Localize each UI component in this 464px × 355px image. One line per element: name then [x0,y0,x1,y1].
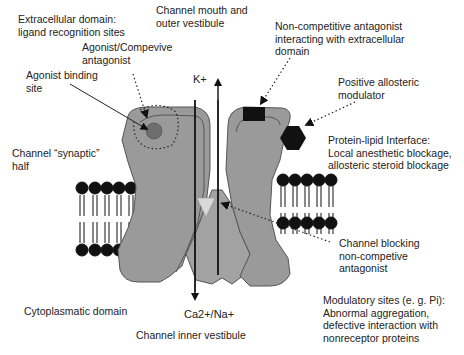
label-line: site [26,82,98,95]
label-positive-allosteric: Positive allosteric modulator [338,76,419,101]
lipid-bilayer-right [277,174,337,234]
noncompetitive-pointer [262,58,290,102]
label-agonist-competitive: Agonist/Compevive antagonist [82,41,172,66]
label-line: nonreceptor proteins [323,332,445,345]
allosteric-pointer [308,102,355,124]
label-line: Channel mouth and [156,4,248,17]
label-line: ligand recognition sites [18,26,125,39]
label-line: modulator [338,89,419,102]
label-line: Agonist binding [26,69,98,82]
label-line: Local anesthetic blockage, [328,147,452,160]
label-inner-vestibule: Channel inner vestibule [136,329,246,342]
label-line: interacting with extracellular [275,33,405,46]
label-line: antagonist [82,54,172,67]
label-line: antagonist [339,262,420,275]
label-line: Channel inner vestibule [136,329,246,342]
label-channel-mouth: Channel mouth and outer vestibule [156,4,248,29]
label-cytoplasmatic-domain: Cytoplasmatic domain [24,305,127,318]
label-line: half [12,160,100,173]
label-line: Agonist/Compevive [82,41,172,54]
label-protein-lipid-interface: Protein-lipid Interface: Local anestheti… [328,134,452,172]
label-line: domain [275,45,405,58]
label-line: Cytoplasmatic domain [24,305,127,318]
label-line: Channel “synaptic” [12,147,100,160]
label-line: Positive allosteric [338,76,419,89]
label-agonist-binding-site: Agonist binding site [26,69,98,94]
label-line: outer vestibule [156,17,248,30]
label-line: Abnormal aggregation, [323,307,445,320]
ion-label-k: K+ [193,73,207,86]
label-synaptic-half: Channel “synaptic” half [12,147,100,172]
label-channel-blocking: Channel blocking non-competive antagonis… [339,237,420,275]
label-line: Modulatory sites (e. g. Pi): [323,294,445,307]
label-line: Non-competitive antagonist [275,20,405,33]
label-line: Channel blocking [339,237,420,250]
label-noncompetitive-extracellular: Non-competitive antagonist interacting w… [275,20,405,58]
label-line: Protein-lipid Interface: [328,134,452,147]
noncompetitive-antagonist-square [243,107,265,121]
label-line: non-competive [339,250,420,263]
label-modulatory-sites: Modulatory sites (e. g. Pi): Abnormal ag… [323,294,445,344]
label-line: Extracellular domain: [18,13,125,26]
label-line: allosteric steroid blockage [328,159,452,172]
agonist-binding-site [146,123,162,139]
ion-label-ca-na: Ca2+/Na+ [184,308,234,321]
label-extracellular-domain: Extracellular domain: ligand recognition… [18,13,125,38]
label-line: defective interaction with [323,319,445,332]
